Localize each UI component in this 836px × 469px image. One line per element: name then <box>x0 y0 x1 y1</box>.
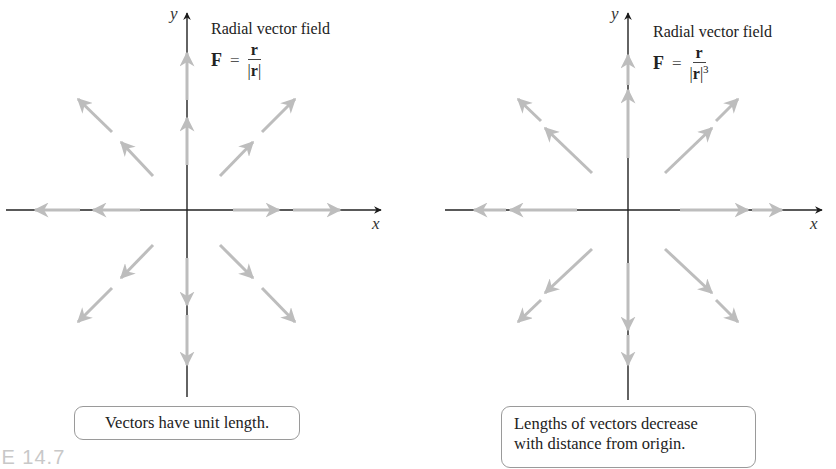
formula-equals: = <box>672 54 682 74</box>
formula-denominator-power: 3 <box>703 63 709 75</box>
formula-lhs: F <box>653 53 664 74</box>
right-panel-title: Radial vector field <box>653 23 772 41</box>
right-y-axis-label: y <box>611 4 619 24</box>
figure-number-label: RE 14.7 <box>0 446 65 469</box>
left-panel-title: Radial vector field <box>211 20 330 38</box>
formula-denominator-r: r <box>251 62 258 79</box>
formula-denominator: |r| <box>248 60 262 79</box>
formula-fraction: r |r| <box>248 42 262 79</box>
right-caption-box: Lengths of vectors decrease with distanc… <box>501 406 756 468</box>
right-formula: F = r |r|3 <box>653 45 709 82</box>
right-caption-line-2: with distance from origin. <box>514 434 743 454</box>
left-y-axis-label: y <box>170 4 178 24</box>
left-caption-box: Vectors have unit length. <box>74 406 300 440</box>
left-x-axis-label: x <box>372 214 380 234</box>
right-caption-line-1: Lengths of vectors decrease <box>514 414 743 434</box>
left-panel-plot <box>6 13 381 397</box>
left-caption-text: Vectors have unit length. <box>105 413 269 432</box>
formula-numerator: r <box>693 45 706 63</box>
left-formula: F = r |r| <box>211 42 261 79</box>
formula-fraction: r |r|3 <box>690 45 709 82</box>
formula-numerator: r <box>248 42 261 60</box>
right-panel-plot <box>445 13 822 400</box>
formula-denominator: |r|3 <box>690 63 709 82</box>
right-x-axis-label: x <box>810 214 818 234</box>
formula-equals: = <box>230 51 240 71</box>
formula-lhs: F <box>211 50 222 71</box>
formula-denominator-r: r <box>693 65 700 82</box>
